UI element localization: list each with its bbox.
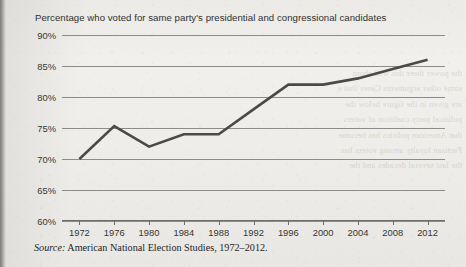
chart-figure: Percentage who voted for same party's pr… xyxy=(0,0,466,267)
x-axis-label-2004: 2004 xyxy=(348,227,369,238)
y-axis-label-80: 80% xyxy=(37,92,56,103)
x-axis-label-2008: 2008 xyxy=(382,227,403,238)
x-axis-label-1988: 1988 xyxy=(208,227,229,238)
x-axis-label-1972: 1972 xyxy=(69,227,90,238)
y-axis-label-60: 60% xyxy=(37,216,56,227)
plot-area: 90%85%80%75%70%65%60% 197219761980198419… xyxy=(62,35,445,221)
y-axis-label-65: 65% xyxy=(37,185,56,196)
y-axis-label-90: 90% xyxy=(37,30,56,41)
y-axis-label-75: 75% xyxy=(37,123,56,134)
chart-title: Percentage who voted for same party's pr… xyxy=(35,12,386,23)
x-axis-label-1976: 1976 xyxy=(104,227,125,238)
x-axis-label-1980: 1980 xyxy=(139,227,160,238)
data-series-line xyxy=(62,35,445,221)
source-note: Source: American National Election Studi… xyxy=(34,242,268,253)
source-text: American National Election Studies, 1972… xyxy=(67,242,267,253)
x-axis-label-2000: 2000 xyxy=(313,227,334,238)
source-label: Source: xyxy=(34,242,65,253)
x-axis-label-1992: 1992 xyxy=(243,227,264,238)
y-axis-label-70: 70% xyxy=(37,154,56,165)
x-axis-label-2012: 2012 xyxy=(417,227,438,238)
x-axis-label-1984: 1984 xyxy=(173,227,194,238)
x-axis-label-1996: 1996 xyxy=(278,227,299,238)
y-axis-label-85: 85% xyxy=(37,61,56,72)
